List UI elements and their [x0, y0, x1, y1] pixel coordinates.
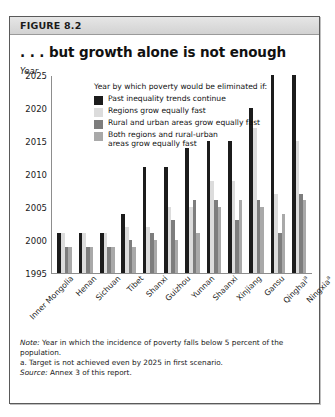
bar: [111, 247, 115, 273]
legend-swatch-icon-3: [94, 132, 103, 141]
figure-header: FIGURE 8.2: [10, 17, 319, 35]
bar: [239, 200, 243, 273]
bar: [218, 207, 222, 273]
legend-swatch-icon-0: [94, 96, 103, 105]
plot-area: Year by which poverty would be eliminate…: [51, 76, 312, 274]
bar-group: [289, 76, 310, 273]
chart-plot: 1995200020052010201520202025 Year by whi…: [20, 76, 312, 274]
bar: [132, 247, 136, 273]
y-tick-1995: 1995: [25, 269, 47, 279]
bar: [90, 247, 94, 273]
footnote-a: a. Target is not achieved even by 2025 i…: [20, 358, 308, 368]
legend-item-1: Regions grow equally fast: [94, 107, 290, 117]
legend-swatch-icon-1: [94, 108, 103, 117]
legend-item-2: Rural and urban areas grow equally fast: [94, 119, 290, 129]
bar: [175, 240, 179, 273]
note-label: Note:: [20, 338, 40, 347]
y-tick-2000: 2000: [25, 236, 47, 246]
bar: [303, 200, 307, 273]
x-label-8: Xinjiang: [234, 274, 263, 303]
note-text: Year in which the incidence of poverty f…: [20, 338, 283, 357]
source-text: Annex 3 of this report.: [48, 368, 132, 377]
legend-rows: Past inequality trends continueRegions g…: [94, 95, 290, 149]
y-tick-2020: 2020: [25, 104, 47, 114]
figure-title: . . . but growth alone is not enough: [20, 44, 319, 60]
bar: [282, 214, 286, 273]
source-label: Source:: [20, 368, 48, 377]
bar: [68, 247, 72, 273]
legend-label-2: Rural and urban areas grow equally fast: [108, 119, 260, 128]
figure-card: FIGURE 8.2 . . . but growth alone is not…: [9, 16, 320, 404]
y-axis: 1995200020052010201520202025: [20, 76, 50, 274]
x-label-3: Tibet: [125, 274, 145, 294]
source-line: Source: Annex 3 of this report.: [20, 368, 308, 378]
y-tick-2025: 2025: [25, 71, 47, 81]
legend-swatch-icon-2: [94, 120, 103, 129]
legend-label-3: Both regions and rural-urbanareas grow e…: [108, 131, 218, 149]
bar: [260, 207, 264, 273]
bar-group: [54, 76, 75, 273]
x-label-7: Shaanxi: [211, 274, 239, 302]
x-label-2: Sichuan: [94, 274, 122, 302]
y-tick-2005: 2005: [25, 203, 47, 213]
legend-label-0: Past inequality trends continue: [108, 95, 226, 104]
bar: [196, 233, 200, 273]
y-tick-2010: 2010: [25, 170, 47, 180]
figure-number: FIGURE 8.2: [20, 20, 81, 31]
y-tick-2015: 2015: [25, 137, 47, 147]
x-label-0: Inner Mongolia: [28, 274, 75, 321]
figure-notes: Note: Year in which the incidence of pov…: [20, 338, 308, 377]
legend-item-0: Past inequality trends continue: [94, 95, 290, 105]
legend-title: Year by which poverty would be eliminate…: [94, 82, 290, 91]
x-axis-labels: Inner MongoliaHenanSichuanTibetShanxiGui…: [51, 274, 333, 336]
chart-legend: Year by which poverty would be eliminate…: [94, 82, 290, 151]
note-line: Note: Year in which the incidence of pov…: [20, 338, 308, 358]
legend-item-3: Both regions and rural-urbanareas grow e…: [94, 131, 290, 149]
legend-label-1: Regions grow equally fast: [108, 107, 206, 116]
bar: [154, 240, 158, 273]
